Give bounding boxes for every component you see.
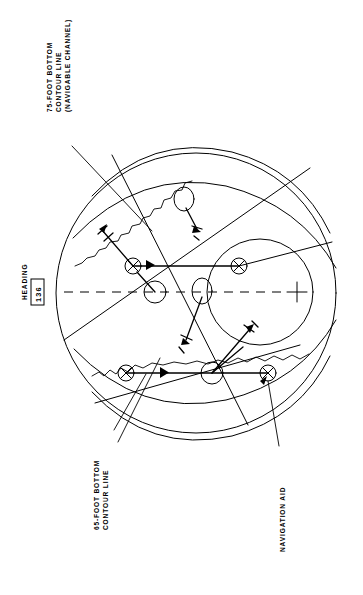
leader-contour-75 bbox=[72, 146, 152, 231]
bearing-line-b bbox=[112, 155, 248, 425]
label-contour-65ft-line2: CONTOUR LINE bbox=[102, 470, 109, 530]
own-ship-crosshair-icon bbox=[287, 282, 307, 302]
ppi-scope bbox=[56, 148, 336, 440]
contact-marker-3 bbox=[174, 187, 202, 240]
bearing-line-a bbox=[64, 168, 310, 340]
track-arrow-lower bbox=[160, 367, 169, 378]
scope-outer-circle bbox=[56, 153, 336, 433]
track-arrow-upper bbox=[146, 260, 155, 270]
label-contour-65ft-line1: 65-FOOT BOTTOM bbox=[93, 460, 100, 530]
label-nav-aid: NAVIGATION AID bbox=[279, 487, 286, 552]
contour-line-75ft bbox=[92, 148, 330, 233]
label-nav-aid-line1: NAVIGATION AID bbox=[279, 487, 286, 552]
contact-marker-4 bbox=[201, 347, 243, 384]
label-contour-75ft-line3: (NAVIGABLE CHANNEL) bbox=[64, 19, 72, 112]
figure-canvas: 75-FOOT BOTTOM CONTOUR LINE (NAVIGABLE C… bbox=[0, 0, 363, 595]
vector-tick-icon-2 bbox=[212, 321, 258, 373]
heading-value: 136 bbox=[34, 286, 43, 302]
leader-nav-aid bbox=[268, 381, 279, 446]
label-contour-65ft: 65-FOOT BOTTOM CONTOUR LINE bbox=[93, 460, 109, 530]
heading-readout: HEADING 136 bbox=[21, 264, 44, 305]
contour-line-65ft bbox=[74, 320, 336, 404]
vector-tick-icon-1 bbox=[98, 224, 133, 266]
radar-display-figure: 75-FOOT BOTTOM CONTOUR LINE (NAVIGABLE C… bbox=[0, 0, 363, 595]
heading-label: HEADING bbox=[21, 264, 28, 300]
label-contour-75ft-line2: CONTOUR LINE bbox=[55, 52, 62, 112]
label-contour-75ft: 75-FOOT BOTTOM CONTOUR LINE (NAVIGABLE C… bbox=[46, 19, 72, 112]
label-contour-75ft-line1: 75-FOOT BOTTOM bbox=[46, 42, 53, 112]
contact-marker-1 bbox=[137, 272, 166, 303]
